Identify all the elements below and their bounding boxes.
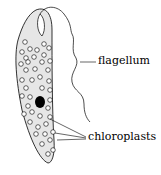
chloroplasts-label: chloroplasts <box>88 130 156 143</box>
chloroplast-leader-2 <box>55 133 86 138</box>
flagellum-label: flagellum <box>98 54 150 67</box>
chloroplast-leader-1 <box>50 119 86 137</box>
euglena-diagram <box>0 0 161 175</box>
nucleus <box>35 96 45 108</box>
chloroplast-leader-3 <box>57 139 86 140</box>
